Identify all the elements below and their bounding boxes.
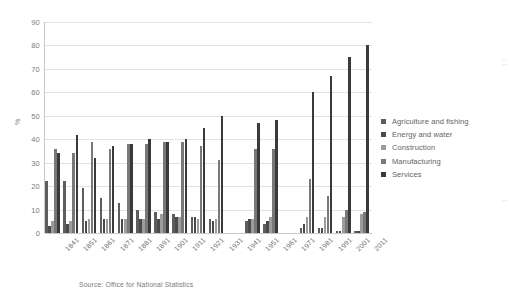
y-axis-tick-label: 60 bbox=[31, 88, 40, 97]
bar-group bbox=[318, 22, 336, 233]
bar-group bbox=[281, 22, 299, 233]
x-axis-tick-label: 1881 bbox=[137, 236, 154, 253]
y-axis-tick-label: 30 bbox=[31, 158, 40, 167]
bar bbox=[221, 116, 224, 233]
bar bbox=[130, 144, 133, 233]
legend-item[interactable]: Agriculture and fishing bbox=[381, 115, 505, 128]
gridline bbox=[45, 233, 372, 234]
bar-group bbox=[100, 22, 118, 233]
x-axis-tick-label: 1851 bbox=[82, 236, 99, 253]
bar bbox=[76, 135, 79, 233]
bar bbox=[166, 142, 169, 233]
bar-group bbox=[354, 22, 372, 233]
bar-groups bbox=[45, 22, 372, 233]
legend-item-label: Manufacturing bbox=[392, 157, 441, 166]
bar bbox=[348, 57, 351, 233]
x-axis-tick-label: 1991 bbox=[336, 236, 353, 253]
x-axis-labels: 1841185118611871188118911901191119211931… bbox=[44, 236, 371, 270]
y-axis-tick-label: 70 bbox=[31, 64, 40, 73]
x-axis-tick-label: 1981 bbox=[318, 236, 335, 253]
y-axis-tick-label: 90 bbox=[31, 18, 40, 27]
x-axis-tick-label: 1861 bbox=[100, 236, 117, 253]
x-axis-tick-label: 1891 bbox=[155, 236, 172, 253]
bar-group bbox=[154, 22, 172, 233]
bar bbox=[203, 128, 206, 234]
x-axis-tick-label: 1911 bbox=[191, 236, 207, 252]
bar-group bbox=[45, 22, 63, 233]
x-axis-tick-label: 2001 bbox=[355, 236, 372, 253]
x-axis-tick-label: 1841 bbox=[64, 236, 81, 253]
chart-legend: Agriculture and fishingEnergy and waterC… bbox=[381, 115, 505, 181]
plot-area: 0102030405060708090 bbox=[44, 22, 371, 233]
y-axis-tick-label: 80 bbox=[31, 41, 40, 50]
bar-group bbox=[63, 22, 81, 233]
legend-item-label: Construction bbox=[392, 143, 435, 152]
x-axis-tick-label: 1961 bbox=[282, 236, 299, 253]
legend-swatch-icon bbox=[381, 159, 386, 164]
bar-group bbox=[190, 22, 208, 233]
bar-group bbox=[263, 22, 281, 233]
legend-swatch-icon bbox=[381, 132, 386, 137]
x-axis-tick-label: 1971 bbox=[300, 236, 317, 253]
bar-group bbox=[336, 22, 354, 233]
y-axis-tick-label: 10 bbox=[31, 205, 40, 214]
bar bbox=[366, 45, 369, 233]
source-note: Source: Office for National Statistics bbox=[79, 281, 193, 288]
legend-swatch-icon bbox=[381, 145, 386, 150]
x-axis-tick-label: 1901 bbox=[173, 236, 190, 253]
y-axis-tick-label: 50 bbox=[31, 111, 40, 120]
bar bbox=[94, 158, 97, 233]
bar-group bbox=[209, 22, 227, 233]
legend-item-label: Services bbox=[392, 170, 422, 179]
y-axis-tick-label: 20 bbox=[31, 182, 40, 191]
bar bbox=[257, 123, 260, 233]
bar bbox=[275, 120, 278, 233]
y-axis-title: % bbox=[14, 119, 21, 125]
bar bbox=[148, 139, 151, 233]
x-axis-tick-label: 1951 bbox=[264, 236, 281, 253]
bar-group bbox=[245, 22, 263, 233]
legend-item[interactable]: Energy and water bbox=[381, 128, 505, 141]
bar bbox=[330, 76, 333, 233]
scan-artifact bbox=[502, 64, 507, 65]
legend-item-label: Energy and water bbox=[392, 130, 452, 139]
x-axis-tick-label: 1921 bbox=[209, 236, 226, 253]
x-axis-tick-label: 1941 bbox=[246, 236, 263, 253]
bar-group bbox=[136, 22, 154, 233]
bar bbox=[57, 153, 60, 233]
bar-group bbox=[172, 22, 190, 233]
bar bbox=[112, 146, 115, 233]
scan-artifact bbox=[502, 60, 507, 61]
chart-container: % 0102030405060708090 184118511861187118… bbox=[0, 0, 509, 298]
legend-item[interactable]: Services bbox=[381, 168, 505, 181]
y-axis-tick-label: 0 bbox=[36, 229, 40, 238]
x-axis-tick-label: 2011 bbox=[373, 236, 389, 252]
legend-item-label: Agriculture and fishing bbox=[392, 117, 469, 126]
y-axis-tick-label: 40 bbox=[31, 135, 40, 144]
bar-group bbox=[299, 22, 317, 233]
bar-group bbox=[227, 22, 245, 233]
legend-swatch-icon bbox=[381, 172, 386, 177]
bar bbox=[185, 139, 188, 233]
bar-group bbox=[81, 22, 99, 233]
bar bbox=[312, 92, 315, 233]
legend-item[interactable]: Manufacturing bbox=[381, 155, 505, 168]
x-axis-tick-label: 1871 bbox=[118, 236, 135, 253]
x-axis-tick-label: 1931 bbox=[227, 236, 244, 253]
scan-artifact bbox=[502, 200, 507, 201]
bar-group bbox=[118, 22, 136, 233]
legend-item[interactable]: Construction bbox=[381, 141, 505, 154]
legend-swatch-icon bbox=[381, 119, 386, 124]
